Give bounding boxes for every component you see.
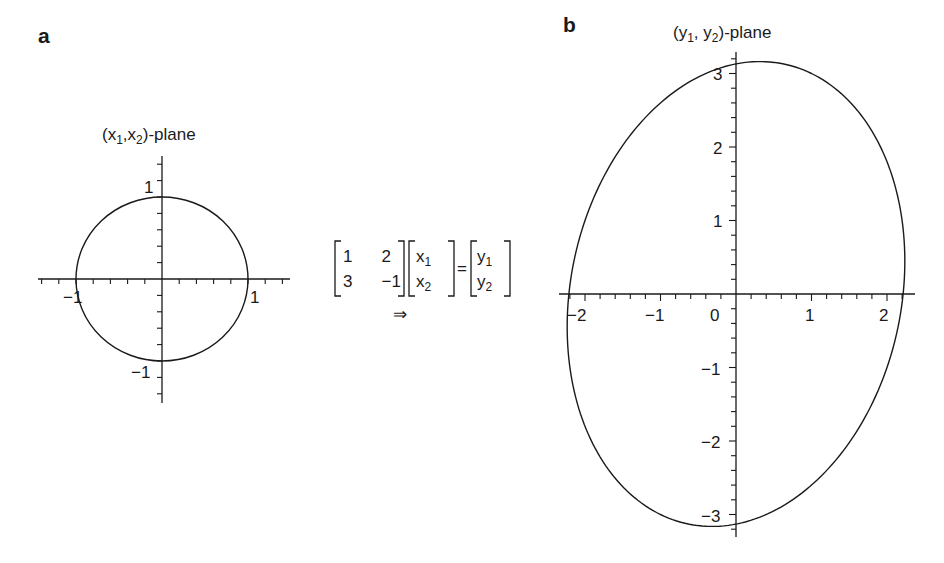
panel-a-letter: a	[38, 24, 50, 47]
panel-b-x-tick-1: 1	[805, 306, 814, 325]
panel-a-plane-label: (x1,x2)-plane	[102, 125, 196, 147]
panel-a-y-tick-neg1: −1	[131, 363, 150, 382]
panel-b-axes	[559, 52, 915, 537]
panel-b-y-tick-neg2: −2	[701, 433, 720, 452]
matrix-a22: −1	[382, 272, 401, 291]
matrix-equation: 1 2 3 −1 x1 x2 = y1 y2 ⇒	[335, 241, 510, 324]
matrix-a12: 2	[382, 247, 391, 266]
matrix-a11: 1	[343, 247, 352, 266]
panel-a-x-tick-neg1: −1	[63, 288, 82, 307]
panel-a-y-tick-1: 1	[144, 178, 153, 197]
panel-b-y-tick-1: 1	[713, 212, 722, 231]
panel-a-x-tick-1: 1	[250, 288, 259, 307]
x-vector-right-bracket	[448, 241, 454, 296]
matrix-left-bracket	[335, 241, 341, 296]
y-vector-y1: y1	[477, 247, 493, 269]
panel-b-x-tick-neg2: −2	[567, 306, 586, 325]
matrix-a21: 3	[343, 272, 352, 291]
panel-b-y-tick-neg1: −1	[701, 360, 720, 379]
equals-sign: =	[457, 259, 467, 278]
panel-b-x-tick-neg1: −1	[645, 306, 664, 325]
panel-b-y-tick-neg3: −3	[701, 507, 720, 526]
panel-b-y-tick-2: 2	[713, 139, 722, 158]
x-vector-x1: x1	[416, 247, 432, 269]
y-vector-right-bracket	[504, 241, 510, 296]
x-vector-left-bracket	[409, 241, 415, 296]
x-vector-x2: x2	[416, 272, 432, 294]
implies-arrow: ⇒	[393, 305, 407, 324]
panel-b-letter: b	[563, 13, 576, 36]
figure: a b (x1,x2)-plane −1 1 1 −1 1 2 3 −1 x1 …	[0, 0, 944, 563]
panel-b-x-tick-2: 2	[879, 306, 888, 325]
panel-b-y-tick-3: 3	[713, 65, 722, 84]
panel-b-x-tick-0: 0	[710, 306, 719, 325]
panel-b-plane-label: (y1, y2)-plane	[673, 23, 771, 45]
y-vector-y2: y2	[477, 272, 493, 294]
panel-a-axes	[38, 156, 290, 403]
